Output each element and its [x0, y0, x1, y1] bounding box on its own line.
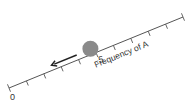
axis-min-label: 0 — [10, 92, 15, 102]
axis-tick — [61, 67, 63, 72]
axis-tick — [148, 31, 150, 36]
axis-tick — [26, 81, 28, 86]
frequency-diagram: 0 .5 Frequency of A — [0, 0, 187, 104]
axis-tick — [79, 60, 81, 65]
axis-tick — [166, 24, 168, 29]
left-arrow-icon — [51, 55, 76, 66]
axis-tick — [44, 74, 46, 79]
axis-tick — [113, 45, 115, 50]
axis-tick — [131, 38, 133, 43]
